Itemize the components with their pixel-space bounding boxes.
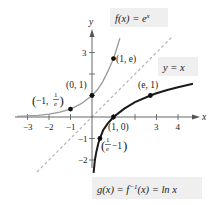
x-tick-label: 4 <box>176 122 181 132</box>
x-axis-label: x <box>201 112 207 122</box>
g-equation-label: g(x) = f−1(x) = ln x <box>97 183 177 196</box>
label-part: −1, <box>36 96 48 106</box>
svg-text:1: 1 <box>106 136 110 144</box>
x-tick-label: −2 <box>44 122 54 132</box>
graph-canvas: x −3 −2 −1 3 4 y 3 −1 −2 (0, 1) <box>0 0 213 205</box>
point-neg1-inv-e <box>68 107 73 112</box>
x-tick-label: −3 <box>23 122 33 132</box>
x-axis-arrow-icon <box>192 115 200 120</box>
y-axis <box>89 29 95 168</box>
point-label-e-1: (e, 1) <box>138 80 158 91</box>
x-tick-label: −1 <box>66 122 76 132</box>
f-equation-label: f(x) = ex <box>115 12 151 25</box>
svg-text:1: 1 <box>54 91 58 99</box>
svg-text:e: e <box>54 100 57 108</box>
y-axis-arrow-icon <box>90 29 95 37</box>
y-axis-label: y <box>88 17 94 27</box>
svg-text:e: e <box>106 145 109 153</box>
x-tick-label: 3 <box>154 122 159 132</box>
y-tick-label: −1 <box>78 134 88 144</box>
point-e-1 <box>148 93 153 98</box>
y-tick-label: 3 <box>82 48 87 58</box>
y-tick-label: −2 <box>78 155 88 165</box>
point-label-0-1: (0, 1) <box>66 80 87 91</box>
inverse-function-graph: x −3 −2 −1 3 4 y 3 −1 −2 (0, 1) <box>0 0 213 205</box>
point-label-1-0: (1, 0) <box>108 122 129 133</box>
point-label-inv-e-neg1: ( 1 e −1 ) <box>101 136 127 153</box>
svg-text:): ) <box>123 138 127 153</box>
point-label-neg1-inv-e: ( −1, 1 e ) <box>32 91 64 108</box>
point-0-1 <box>90 93 95 98</box>
svg-text:(: ( <box>101 138 105 153</box>
identity-equation-label: y = x <box>162 62 185 73</box>
point-1-0 <box>111 115 116 120</box>
svg-text:−1: −1 <box>112 141 122 151</box>
svg-text:): ) <box>60 93 64 108</box>
point-label-1-e: (1, e) <box>116 54 136 65</box>
